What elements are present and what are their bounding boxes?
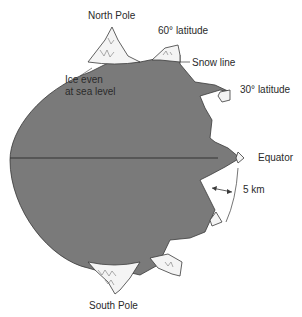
south-pole-label: South Pole <box>89 300 138 312</box>
south-pole-ice <box>88 262 140 294</box>
equator-label: Equator <box>258 152 293 164</box>
earth-profile-diagram <box>0 0 302 317</box>
scale-label: 5 km <box>243 184 265 196</box>
scale-arc <box>226 168 238 222</box>
land-mass <box>10 55 240 275</box>
ice-sea-level-label-1: Ice even <box>65 74 103 86</box>
lat60-ice <box>152 45 180 62</box>
north-pole-ice <box>88 27 140 64</box>
lat30-ice <box>218 90 230 102</box>
lat60-label: 60° latitude <box>158 25 208 37</box>
ice-sea-level-label-2: at sea level <box>65 86 116 98</box>
lat30-label: 30° latitude <box>240 84 290 96</box>
equator-ice <box>236 152 244 163</box>
north-pole-label: North Pole <box>88 10 135 22</box>
snow-line-label: Snow line <box>192 57 235 69</box>
